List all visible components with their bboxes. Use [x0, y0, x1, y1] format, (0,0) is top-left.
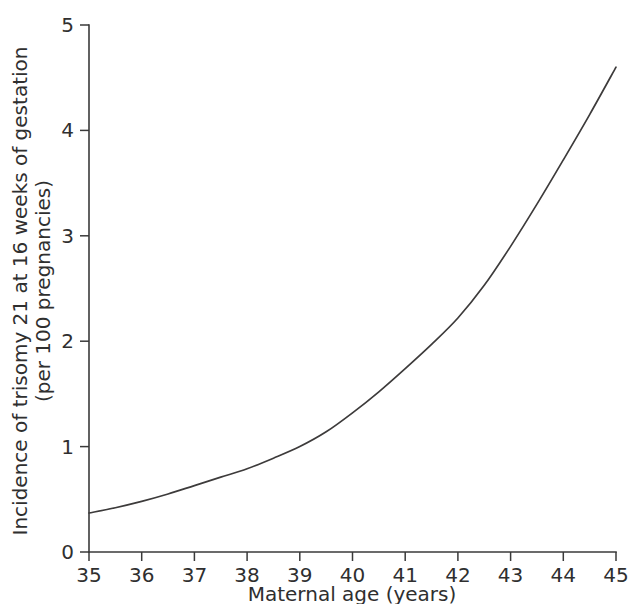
x-tick-label: 36 [129, 563, 154, 587]
y-axis-title-line1: Incidence of trisomy 21 at 16 weeks of g… [8, 47, 32, 536]
y-axis-ticks [80, 25, 89, 552]
y-axis-group: 012345 [61, 13, 89, 564]
x-tick-label: 35 [76, 563, 101, 587]
y-axis-tick-labels: 012345 [61, 13, 74, 564]
trisomy-incidence-curve [89, 67, 616, 513]
x-axis-ticks [89, 552, 616, 561]
x-tick-label: 43 [498, 563, 523, 587]
y-tick-label: 2 [61, 329, 74, 353]
x-tick-label: 44 [551, 563, 576, 587]
chart-figure: 012345 3536373839404142434445 Incidence … [0, 0, 628, 604]
y-tick-label: 5 [61, 13, 74, 37]
x-axis-title: Maternal age (years) [248, 582, 457, 604]
x-tick-label: 45 [603, 563, 628, 587]
y-tick-label: 4 [61, 118, 74, 142]
y-tick-label: 1 [61, 435, 74, 459]
y-tick-label: 0 [61, 540, 74, 564]
x-tick-label: 37 [182, 563, 207, 587]
y-axis-title-line2: (per 100 pregnancies) [31, 180, 55, 402]
y-tick-label: 3 [61, 224, 74, 248]
line-chart: 012345 3536373839404142434445 Incidence … [0, 0, 628, 604]
